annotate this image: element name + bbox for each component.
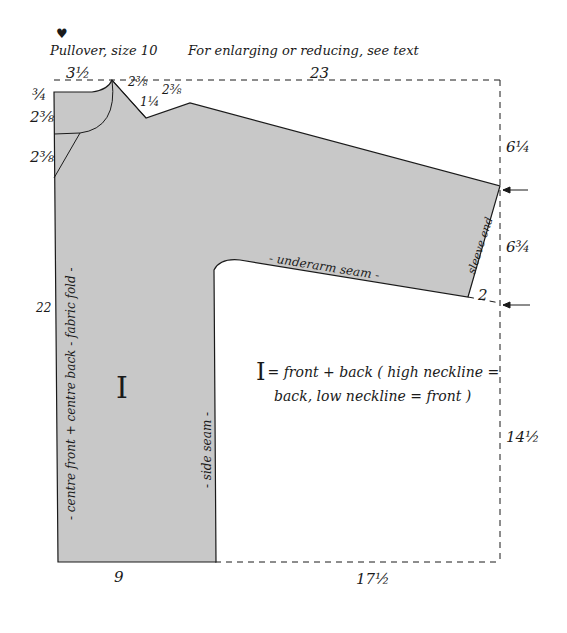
- measure-total-length: 22: [36, 302, 51, 314]
- measure-sleeve-end: 6¾: [506, 240, 530, 255]
- measure-sleeve-drop: 6¼: [506, 140, 530, 155]
- measure-shoulder-slope-left: 2⅜: [128, 76, 147, 88]
- label-center-fold: - centre front + centre back - fabric fo…: [64, 267, 78, 520]
- pattern-title: Pullover, size 10: [50, 44, 157, 57]
- measure-body-width: 9: [114, 570, 124, 585]
- measure-sleeve-width-offset: 17½: [356, 572, 390, 587]
- heart-icon: ♥: [56, 26, 68, 41]
- pattern-piece: [54, 80, 500, 562]
- legend-mark: I: [256, 358, 265, 386]
- measure-shoulder-slope-right: 2⅜: [162, 84, 181, 96]
- measure-low-neck-depth: 2⅜: [30, 150, 54, 165]
- measure-dart-depth: 1¼: [140, 96, 159, 108]
- legend-line-2: back, low neckline = front ): [274, 388, 471, 404]
- pattern-note: For enlarging or reducing, see text: [188, 44, 419, 57]
- measure-overall-width: 23: [310, 66, 329, 81]
- measure-neck-width: 3½: [66, 66, 90, 81]
- measure-top-drop: ¾: [32, 88, 47, 103]
- measure-sleeve-offset: 2: [478, 288, 488, 303]
- label-side-seam: - side seam -: [200, 412, 214, 488]
- measure-high-neck-depth: 2⅜: [30, 110, 54, 125]
- legend: I= front + back ( high neckline = back, …: [256, 360, 499, 408]
- legend-line-1: = front + back ( high neckline =: [267, 364, 499, 380]
- pattern-diagram: [0, 0, 567, 633]
- piece-mark: I: [116, 370, 128, 405]
- measure-body-length: 14½: [506, 430, 540, 445]
